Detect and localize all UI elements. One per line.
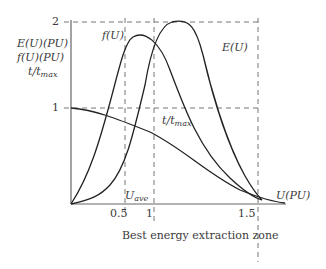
- ylabel-line1: E(U)(PU): [17, 38, 68, 50]
- xtick-1: 1: [146, 208, 153, 220]
- xaxis-label: U(PU): [276, 190, 310, 202]
- ytick-2: 2: [52, 16, 59, 28]
- zone-label: Best energy extraction zone: [122, 230, 279, 242]
- series-label-t: t/tmax: [162, 115, 191, 130]
- ylabel-line2: f(U)(PU): [17, 52, 64, 64]
- ytick-1: 1: [52, 102, 59, 114]
- ylabel-line3-sub: max: [41, 70, 58, 79]
- ylabel-line3: t/tmax: [28, 66, 57, 81]
- xtick-1-5: 1.5: [238, 208, 256, 220]
- axes: [71, 20, 286, 204]
- series-label-t-sub: max: [175, 119, 192, 128]
- uave-label: Uave: [125, 190, 148, 205]
- series-label-E: E(U): [222, 42, 248, 54]
- series-label-t-main: t/t: [162, 114, 175, 127]
- series-label-f: f(U): [102, 30, 124, 42]
- uave-main: U: [125, 189, 134, 202]
- uave-sub: ave: [134, 194, 148, 203]
- ylabel-line3-main: t/t: [28, 65, 41, 78]
- xtick-0-5: 0.5: [110, 208, 128, 220]
